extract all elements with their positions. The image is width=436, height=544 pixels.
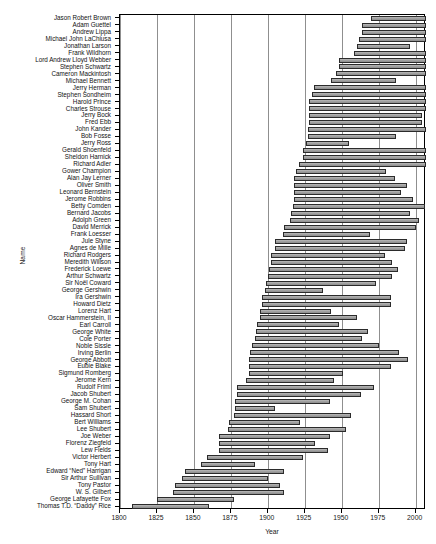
x-tick-label: 1825 <box>148 514 163 521</box>
bar <box>371 16 426 21</box>
bar <box>293 204 425 209</box>
y-axis-label: Eubie Blake <box>77 362 111 369</box>
x-tick-label: 1800 <box>111 514 126 521</box>
bar <box>262 302 391 307</box>
y-axis-label: Sir Noël Coward <box>65 279 111 286</box>
bar <box>237 392 361 397</box>
bar <box>359 37 426 42</box>
y-axis-label: Lorenz Hart <box>78 307 111 314</box>
y-axis-label: John Kander <box>75 125 111 132</box>
y-axis-label: George Gershwin <box>62 286 111 293</box>
y-axis-label: Ira Gershwin <box>75 293 111 300</box>
y-axis-label: Harold Prince <box>73 98 111 105</box>
y-axis-label: Florenz Ziegfeld <box>66 439 111 446</box>
x-tick-label: 1975 <box>370 514 385 521</box>
y-axis-label: Gower Champion <box>62 167 111 174</box>
bar <box>132 504 209 509</box>
bar <box>306 141 349 146</box>
y-axis-label: Lew Fields <box>81 446 111 453</box>
bar <box>260 315 356 320</box>
y-axis-label: David Merrick <box>73 223 112 230</box>
bar <box>284 225 416 230</box>
bar <box>265 288 323 293</box>
y-axis-label: Lee Shubert <box>77 425 111 432</box>
bar <box>336 71 426 76</box>
bar <box>354 51 426 56</box>
bar <box>339 64 426 69</box>
lifespan-gantt-chart: Name Jason Robert BrownAdam GuettelAndre… <box>0 0 436 544</box>
bar <box>314 85 426 90</box>
y-axis-label: Meredith Willson <box>64 258 111 265</box>
bar <box>294 197 412 202</box>
bar <box>357 44 410 49</box>
y-axis-label: Alan Jay Lerner <box>67 174 111 181</box>
y-axis-label: George M. Cohan <box>61 397 111 404</box>
bar <box>312 92 426 97</box>
y-axis-label: Jacob Shubert <box>70 390 111 397</box>
y-axis-label: Earl Carroll <box>80 321 112 328</box>
bar <box>201 462 254 467</box>
bar <box>275 239 407 244</box>
bar <box>249 357 409 362</box>
y-axis-label: Lord Andrew Lloyd Webber <box>35 56 111 63</box>
y-axis-label: Sheldon Harnick <box>65 153 111 160</box>
y-axis-label: Victor Herbert <box>72 453 111 460</box>
y-axis-label: Howard Dietz <box>73 300 111 307</box>
bar <box>250 350 399 355</box>
bar <box>275 246 405 251</box>
x-tick-label: 2000 <box>407 514 422 521</box>
y-axis-label: Oliver Smith <box>77 181 111 188</box>
x-tick-1925 <box>304 509 305 513</box>
y-axis-category-labels: Jason Robert BrownAdam GuettelAndrew Lip… <box>0 14 116 509</box>
y-axis-label: Frank Wildhorn <box>68 49 111 56</box>
bar <box>309 106 426 111</box>
x-tick-1850 <box>193 509 194 513</box>
bar <box>229 420 300 425</box>
x-tick-1950 <box>341 509 342 513</box>
y-axis-label: Charles Strouse <box>66 105 111 112</box>
y-axis-label: Sam Shubert <box>74 404 111 411</box>
bar <box>296 169 386 174</box>
bar <box>308 134 397 139</box>
y-axis-label: Jason Robert Brown <box>54 14 111 21</box>
y-axis-label: Richard Adler <box>73 160 111 167</box>
x-tick-1800 <box>119 509 120 513</box>
bar <box>249 364 391 369</box>
y-axis-label: Frederick Loewe <box>64 265 111 272</box>
gridline-1800 <box>120 15 121 508</box>
y-axis-label: Michael John LaChiusa <box>46 35 111 42</box>
bar <box>219 441 315 446</box>
bar <box>362 23 426 28</box>
bar <box>309 99 426 104</box>
bar <box>331 78 396 83</box>
bar <box>260 309 331 314</box>
y-axis-label: Cameron Mackintosh <box>52 70 112 77</box>
y-axis-label: Andrew Lippa <box>72 28 111 35</box>
x-axis-title: Year <box>119 528 425 535</box>
y-axis-label: Oscar Hammerstein, II <box>48 314 111 321</box>
y-axis-label: Sir Arthur Sullivan <box>61 474 111 481</box>
y-axis-label: Tony Pastor <box>78 481 111 488</box>
y-axis-label: Leonard Bernstein <box>60 188 111 195</box>
bar <box>271 260 392 265</box>
bar <box>257 322 338 327</box>
x-tick-1900 <box>267 509 268 513</box>
y-axis-label: Arthur Schwartz <box>66 272 111 279</box>
y-axis-label: Bernard Jacobs <box>67 209 111 216</box>
bar <box>207 455 303 460</box>
y-axis-label: Jerry Ross <box>81 139 111 146</box>
bar <box>234 413 351 418</box>
x-tick-label: 1850 <box>185 514 200 521</box>
y-axis-label: Hassard Short <box>71 411 111 418</box>
x-tick-label: 1875 <box>222 514 237 521</box>
bar <box>219 434 330 439</box>
bar <box>271 253 385 258</box>
y-axis-label: Jerry Herman <box>73 84 111 91</box>
bar <box>299 162 426 167</box>
y-axis-label: Cole Porter <box>79 335 111 342</box>
y-axis-label: Jerome Robbins <box>65 195 111 202</box>
bar <box>185 469 284 474</box>
y-axis-label: Noble Sissle <box>76 342 111 349</box>
y-axis-label: Thomas T.D. “Daddy” Rice <box>37 502 111 509</box>
bar <box>362 30 426 35</box>
